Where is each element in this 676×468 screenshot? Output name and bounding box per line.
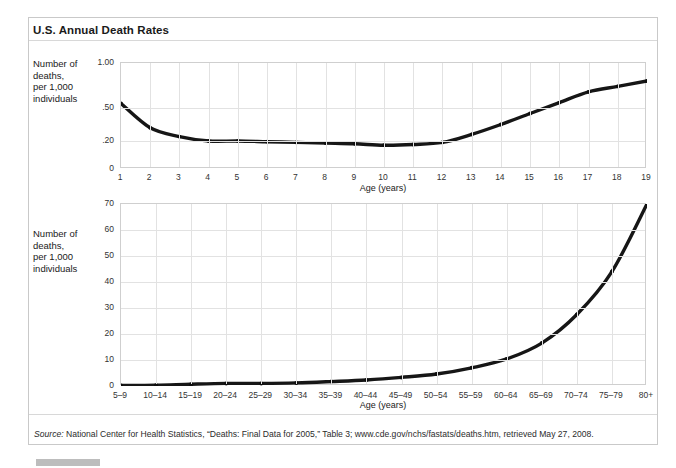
gridline-vertical bbox=[507, 204, 508, 384]
bottom-chart-y-tick-label: 10 bbox=[80, 354, 114, 364]
top-chart-x-tick-label: 12 bbox=[437, 172, 446, 182]
bottom-chart-y-tick-label: 40 bbox=[80, 276, 114, 286]
top-chart-x-tick-label: 11 bbox=[408, 172, 417, 182]
gridline-vertical bbox=[296, 63, 297, 167]
top-chart-x-axis-title: Age (years) bbox=[360, 183, 407, 193]
top-chart-x-tick-label: 18 bbox=[612, 172, 621, 182]
gridline-vertical bbox=[209, 63, 210, 167]
gridline-horizontal bbox=[121, 334, 645, 335]
gridline-horizontal bbox=[121, 282, 645, 283]
bottom-chart-x-axis-title: Age (years) bbox=[360, 400, 407, 410]
gridline-vertical bbox=[226, 204, 227, 384]
gridline-horizontal bbox=[121, 108, 645, 109]
top-chart-plot-area bbox=[120, 62, 646, 168]
page-title: U.S. Annual Death Rates bbox=[33, 24, 169, 36]
bottom-chart-y-tick-label: 0 bbox=[80, 380, 114, 390]
gridline-vertical bbox=[472, 204, 473, 384]
source-text: National Center for Health Statistics, “… bbox=[64, 429, 594, 439]
top-chart-x-tick-label: 8 bbox=[322, 172, 327, 182]
top-chart-x-tick-label: 19 bbox=[641, 172, 650, 182]
gridline-vertical bbox=[577, 204, 578, 384]
gridline-vertical bbox=[442, 63, 443, 167]
bottom-chart-x-tick-label: 80+ bbox=[639, 390, 653, 400]
bottom-chart-y-tick-label: 70 bbox=[80, 198, 114, 208]
gridline-horizontal bbox=[121, 360, 645, 361]
bottom-chart-x-tick-label: 65–69 bbox=[529, 390, 553, 400]
source-divider bbox=[29, 414, 657, 415]
bottom-chart-x-tick-label: 40–44 bbox=[354, 390, 378, 400]
bottom-chart-line-series bbox=[121, 204, 647, 386]
gridline-horizontal bbox=[121, 141, 645, 142]
gridline-vertical bbox=[296, 204, 297, 384]
gridline-vertical bbox=[472, 63, 473, 167]
source-prefix: Source: bbox=[34, 429, 64, 439]
bottom-chart-x-tick-label: 5–9 bbox=[113, 390, 127, 400]
top-chart-x-tick-label: 6 bbox=[264, 172, 269, 182]
top-chart-y-tick-label: .50 bbox=[80, 102, 114, 112]
gridline-horizontal bbox=[121, 256, 645, 257]
gridline-vertical bbox=[261, 204, 262, 384]
gridline-vertical bbox=[589, 63, 590, 167]
gridline-vertical bbox=[156, 204, 157, 384]
gridline-vertical bbox=[191, 204, 192, 384]
bottom-chart-y-tick-label: 20 bbox=[80, 328, 114, 338]
top-chart-y-tick-label: 1.00 bbox=[80, 57, 114, 67]
gridline-vertical bbox=[542, 204, 543, 384]
bottom-chart-x-tick-label: 25–29 bbox=[248, 390, 272, 400]
bottom-chart-y-tick-label: 60 bbox=[80, 224, 114, 234]
bottom-chart-x-tick-label: 55–59 bbox=[459, 390, 483, 400]
top-chart-y-axis-label-line: deaths, bbox=[33, 70, 111, 82]
gridline-vertical bbox=[179, 63, 180, 167]
bottom-chart-x-tick-label: 10–14 bbox=[143, 390, 167, 400]
top-chart-x-tick-label: 1 bbox=[118, 172, 123, 182]
bottom-chart-x-tick-label: 75–79 bbox=[599, 390, 623, 400]
top-chart-y-tick-label: .20 bbox=[80, 135, 114, 145]
top-chart-x-tick-label: 2 bbox=[147, 172, 152, 182]
top-chart-x-tick-label: 10 bbox=[378, 172, 387, 182]
gridline-vertical bbox=[612, 204, 613, 384]
gridline-vertical bbox=[402, 204, 403, 384]
gridline-vertical bbox=[326, 63, 327, 167]
bottom-chart-x-tick-label: 30–34 bbox=[284, 390, 308, 400]
gridline-vertical bbox=[331, 204, 332, 384]
gridline-vertical bbox=[384, 63, 385, 167]
top-chart-x-tick-label: 7 bbox=[293, 172, 298, 182]
top-chart-x-tick-label: 3 bbox=[176, 172, 181, 182]
gridline-vertical bbox=[618, 63, 619, 167]
gridline-vertical bbox=[501, 63, 502, 167]
bottom-chart-x-tick-label: 45–49 bbox=[389, 390, 413, 400]
gridline-vertical bbox=[267, 63, 268, 167]
bottom-chart-x-tick-label: 50–54 bbox=[424, 390, 448, 400]
gridline-vertical bbox=[238, 63, 239, 167]
gridline-vertical bbox=[437, 204, 438, 384]
top-chart-y-axis-label-line: per 1,000 bbox=[33, 81, 111, 93]
top-chart-y-tick-label: 0 bbox=[80, 163, 114, 173]
bottom-chart-y-axis-label-line: individuals bbox=[33, 263, 111, 275]
gridline-vertical bbox=[559, 63, 560, 167]
gridline-vertical bbox=[150, 63, 151, 167]
top-chart-x-tick-label: 16 bbox=[554, 172, 563, 182]
bottom-chart-x-tick-label: 70–74 bbox=[564, 390, 588, 400]
gridline-horizontal bbox=[121, 230, 645, 231]
top-chart-x-tick-label: 15 bbox=[524, 172, 533, 182]
top-chart-x-tick-label: 9 bbox=[351, 172, 356, 182]
top-chart-x-tick-label: 4 bbox=[205, 172, 210, 182]
bottom-chart-plot-area bbox=[120, 203, 646, 385]
top-chart-x-tick-label: 5 bbox=[235, 172, 240, 182]
title-divider bbox=[29, 40, 657, 41]
top-chart-x-tick-label: 17 bbox=[583, 172, 592, 182]
bottom-chart-x-tick-label: 20–24 bbox=[213, 390, 237, 400]
source-note: Source: National Center for Health Stati… bbox=[34, 429, 594, 439]
bottom-chart-x-tick-label: 60–64 bbox=[494, 390, 518, 400]
gridline-vertical bbox=[355, 63, 356, 167]
bottom-chart-y-tick-label: 50 bbox=[80, 250, 114, 260]
bottom-chart-x-tick-label: 15–19 bbox=[178, 390, 202, 400]
gridline-horizontal bbox=[121, 308, 645, 309]
gridline-vertical bbox=[530, 63, 531, 167]
top-chart-x-tick-label: 14 bbox=[495, 172, 504, 182]
bottom-chart-x-tick-label: 35–39 bbox=[319, 390, 343, 400]
footer-tab-marker bbox=[36, 459, 100, 466]
bottom-chart-y-tick-label: 30 bbox=[80, 302, 114, 312]
top-chart-x-tick-label: 13 bbox=[466, 172, 475, 182]
gridline-vertical bbox=[413, 63, 414, 167]
